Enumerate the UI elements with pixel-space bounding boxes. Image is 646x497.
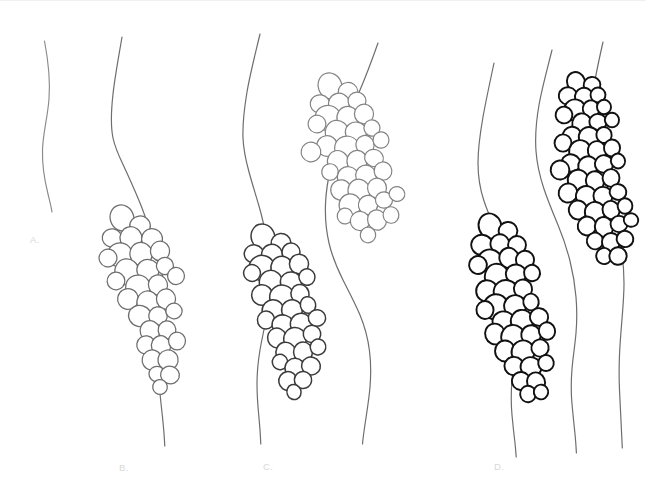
cluster-circle	[476, 301, 494, 320]
cluster-circle	[167, 267, 184, 285]
panel-label-a: A.	[30, 234, 40, 245]
cluster-circle	[597, 100, 612, 115]
panel-label-d: D.	[494, 461, 504, 472]
cluster-circle	[609, 246, 628, 265]
figure-canvas: A.B.C.D.	[0, 0, 646, 497]
panel-label-c: C.	[263, 461, 273, 472]
figure-root: A.B.C.D.	[0, 0, 646, 497]
cluster-circle	[308, 309, 327, 327]
cluster-circle	[373, 132, 389, 149]
panel-label-b: B.	[119, 462, 129, 473]
cluster-circle	[168, 332, 185, 350]
cluster-circle	[617, 198, 633, 215]
